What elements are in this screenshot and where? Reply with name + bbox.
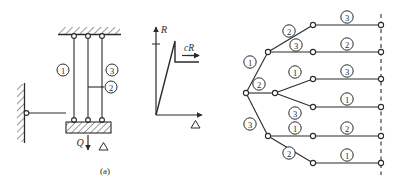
wall-support	[17, 83, 66, 143]
node-l3-a	[378, 22, 383, 27]
svg-text:2: 2	[257, 80, 261, 90]
svg-text:2: 2	[345, 124, 349, 134]
graph-y-label: R	[160, 24, 167, 35]
node-l2-b	[310, 49, 315, 54]
member-label-2: 2	[105, 81, 117, 93]
branch-label-l3-f: 1	[341, 149, 353, 161]
svg-text:1: 1	[293, 68, 297, 78]
branch-label-2-middle: 2	[253, 78, 265, 90]
svg-text:2: 2	[345, 40, 349, 50]
node-l3-d	[378, 104, 383, 109]
svg-text:3: 3	[294, 41, 298, 51]
svg-text:1: 1	[293, 124, 297, 134]
panel-a-drawing: 1 3 2 Q	[0, 0, 207, 189]
node-l1-b	[272, 90, 277, 95]
graph-x-label-triangle	[191, 121, 200, 129]
branch-labels-level2: 2 3 1 3 1	[283, 25, 302, 159]
displacement-marker	[99, 143, 108, 151]
svg-text:2: 2	[287, 27, 291, 37]
svg-text:2: 2	[287, 149, 291, 159]
figure-container: 1 3 2 Q	[0, 0, 414, 189]
member-label-1-text: 1	[61, 66, 65, 76]
branch-label-l3-d: 1	[341, 93, 353, 105]
node-l1-a	[265, 49, 270, 54]
svg-text:3: 3	[345, 67, 349, 77]
branch-label-l3-a: 3	[341, 11, 353, 23]
svg-text:3: 3	[248, 120, 252, 130]
load-label: Q	[76, 137, 84, 148]
tree-edges	[246, 25, 381, 163]
node-l3-c	[378, 76, 383, 81]
branch-label-l3-b: 2	[341, 38, 353, 50]
branch-label-l2-c: 1	[289, 66, 301, 78]
panel-b-drawing: 1 2 3 2 3	[207, 0, 414, 189]
graph-residual-label: cR	[184, 43, 194, 53]
branch-label-l2-f: 2	[283, 147, 295, 159]
svg-text:3: 3	[345, 13, 349, 23]
tree-nodes	[243, 22, 383, 165]
panel-a: 1 3 2 Q	[0, 0, 207, 189]
svg-text:1: 1	[248, 58, 252, 68]
node-l1-c	[265, 133, 270, 138]
member-label-3-text: 3	[110, 66, 114, 76]
member-label-2-text: 2	[109, 83, 113, 93]
node-l2-f	[310, 160, 315, 165]
branch-label-l2-d: 3	[289, 107, 301, 119]
node-l3-b	[378, 49, 383, 54]
branch-label-1-upper: 1	[244, 56, 256, 68]
response-graph: R cR	[152, 24, 202, 128]
ceiling-support	[58, 27, 121, 35]
branch-label-l3-e: 2	[341, 122, 353, 134]
svg-text:3: 3	[293, 109, 297, 119]
node-l3-f	[378, 160, 383, 165]
caption-a: (a)	[100, 166, 110, 176]
member-label-1: 1	[57, 64, 69, 76]
node-l2-e	[310, 133, 315, 138]
member-label-3: 3	[106, 64, 118, 76]
branch-label-l2-b: 3	[290, 39, 302, 51]
node-l2-c	[310, 76, 315, 81]
node-l2-d	[310, 104, 315, 109]
branch-label-l3-c: 3	[341, 65, 353, 77]
root-node	[243, 90, 248, 95]
panel-b: 1 2 3 2 3	[207, 0, 414, 189]
branch-label-3-lower: 3	[244, 118, 256, 130]
svg-text:1: 1	[345, 95, 349, 105]
branch-label-l2-a: 2	[283, 25, 295, 37]
node-l3-e	[378, 133, 383, 138]
node-l2-a	[310, 22, 315, 27]
svg-text:1: 1	[345, 151, 349, 161]
branch-labels-level3: 3 2 3 1 2	[341, 11, 353, 161]
rigid-block	[66, 122, 111, 133]
branch-label-l2-e: 1	[289, 122, 301, 134]
